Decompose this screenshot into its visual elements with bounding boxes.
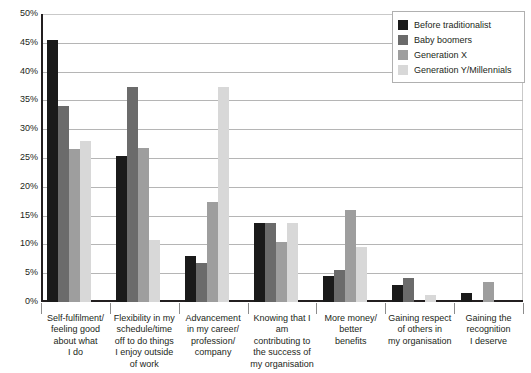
x-axis-label-line: in my career/ (179, 324, 248, 335)
bar (127, 87, 138, 302)
legend-swatch-icon (398, 35, 408, 45)
legend-label: Before traditionalist (414, 20, 491, 30)
bar (116, 156, 127, 302)
bar (276, 242, 287, 302)
x-axis-label: Gaining therecognitionI deserve (454, 313, 523, 347)
y-axis-tick-label: 20% (2, 182, 38, 191)
y-axis-tick-label: 25% (2, 153, 38, 162)
bar (425, 295, 436, 302)
y-axis-tick-label: 50% (2, 9, 38, 18)
x-axis-label-line: schedule/time (110, 324, 179, 335)
y-axis: 50%45%40%35%30%25%20%15%10%5%0% (0, 0, 38, 373)
x-axis-label-line: contributing to (248, 336, 317, 347)
x-axis-label-line: of work (110, 359, 179, 370)
legend-item[interactable]: Before traditionalist (398, 17, 520, 32)
x-axis-label-line: about what (41, 336, 110, 347)
legend-label: Generation Y/Millennials (414, 65, 511, 75)
legend-item[interactable]: Generation Y/Millennials (398, 62, 520, 77)
bar (323, 276, 334, 302)
bar-group (323, 14, 367, 302)
x-axis-label-line: Advancement (179, 313, 248, 324)
x-axis-label: Self-fulfilment/feeling goodabout whatI … (41, 313, 110, 359)
bar-group (116, 14, 160, 302)
y-axis-tick-label: 30% (2, 124, 38, 133)
y-axis-tick-label: 35% (2, 95, 38, 104)
legend-swatch-icon (398, 65, 408, 75)
bar (392, 285, 403, 302)
x-axis-label-line: better (316, 324, 385, 335)
bar-group (185, 14, 229, 302)
bar (47, 40, 58, 302)
bar (218, 87, 229, 302)
bar (196, 263, 207, 302)
bar (287, 223, 298, 302)
x-axis-label: Gaining respectof others inmy organisati… (385, 313, 454, 347)
x-axis-label-line: benefits (316, 336, 385, 347)
x-axis-label-line: company (179, 347, 248, 358)
bar-group (254, 14, 298, 302)
bar (207, 202, 218, 302)
legend-swatch-icon (398, 20, 408, 30)
x-axis-label-line: I do (41, 347, 110, 358)
bar (149, 240, 160, 302)
x-axis-label-line: More money/ (316, 313, 385, 324)
x-axis-label: Flexibility in myschedule/timeoff to do … (110, 313, 179, 370)
x-axis-labels: Self-fulfilment/feeling goodabout whatI … (41, 313, 523, 373)
x-axis-label-line: I enjoy outside (110, 347, 179, 358)
x-axis-label-line: Flexibility in my (110, 313, 179, 324)
x-axis-label-line: Knowing that I am (248, 313, 317, 336)
legend-swatch-icon (398, 50, 408, 60)
x-axis-label-line: the success of (248, 347, 317, 358)
bar (265, 223, 276, 302)
y-axis-tick-label: 15% (2, 211, 38, 220)
x-axis-label-line: recognition (454, 324, 523, 335)
x-axis-label-line: Gaining the (454, 313, 523, 324)
bar (138, 148, 149, 302)
x-axis-label: Knowing that I amcontributing tothe succ… (248, 313, 317, 370)
category-tick (523, 303, 524, 314)
legend-item[interactable]: Generation X (398, 47, 520, 62)
x-axis-label: More money/betterbenefits (316, 313, 385, 347)
y-axis-tick-label: 45% (2, 38, 38, 47)
y-axis-tick-label: 10% (2, 239, 38, 248)
x-axis-label: Advancementin my career/profession/compa… (179, 313, 248, 359)
y-axis-tick-label: 40% (2, 67, 38, 76)
bar (69, 149, 80, 302)
x-axis-label-line: of others in (385, 324, 454, 335)
x-axis-label-line: feeling good (41, 324, 110, 335)
bar (356, 247, 367, 302)
bar (254, 223, 265, 302)
y-axis-tick-label: 5% (2, 268, 38, 277)
bar (461, 293, 472, 302)
x-axis-label-line: off to do things (110, 336, 179, 347)
x-axis-label-line: Gaining respect (385, 313, 454, 324)
y-axis-tick-label: 0% (2, 297, 38, 306)
legend-item[interactable]: Baby boomers (398, 32, 520, 47)
bar (345, 210, 356, 302)
legend-label: Baby boomers (414, 35, 472, 45)
x-axis-label-line: my organisation (248, 359, 317, 370)
bar (80, 141, 91, 302)
bar-chart: 50%45%40%35%30%25%20%15%10%5%0% Self-ful… (0, 0, 531, 373)
bar (483, 282, 494, 302)
x-axis-label-line: profession/ (179, 336, 248, 347)
x-axis-label-line: Self-fulfilment/ (41, 313, 110, 324)
bar (334, 270, 345, 302)
x-axis-label-line: I deserve (454, 336, 523, 347)
bar (403, 278, 414, 302)
chart-legend: Before traditionalistBaby boomersGenerat… (392, 11, 525, 83)
bar-group (47, 14, 91, 302)
bar (58, 106, 69, 302)
bar (185, 256, 196, 302)
legend-label: Generation X (414, 50, 467, 60)
x-axis-label-line: my organisation (385, 336, 454, 347)
